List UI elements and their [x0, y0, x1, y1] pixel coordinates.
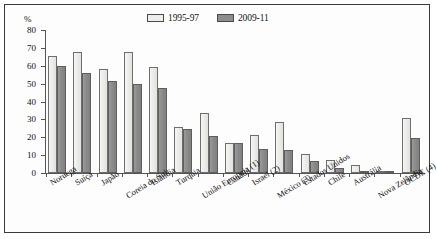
bar-1995-97: [174, 127, 183, 173]
bar-2009-11: [209, 136, 218, 173]
y-tick-label-10: 10: [14, 150, 36, 160]
legend-swatch-light: [147, 14, 164, 22]
bar-2009-11: [284, 150, 293, 173]
bar-group: [402, 30, 420, 173]
bar-group: [351, 30, 369, 173]
bar-2009-11: [108, 81, 117, 173]
bar-1995-97: [124, 52, 133, 173]
y-tick-label-0: 0: [14, 168, 36, 178]
bar-1995-97: [73, 52, 82, 173]
bar-1995-97: [402, 118, 411, 173]
y-tick-label-70: 70: [14, 43, 36, 53]
bar-1995-97: [351, 165, 360, 173]
bar-1995-97: [149, 67, 158, 173]
bar-1995-97: [225, 143, 234, 173]
bar-1995-97: [48, 56, 57, 173]
legend-item-2009-11: 2009-11: [217, 13, 269, 23]
bar-group: [326, 30, 344, 173]
chart-frame: 1995-97 2009-11 % 01020304050607080 Noru…: [4, 4, 430, 233]
bar-group: [174, 30, 192, 173]
legend-label-1995-97: 1995-97: [168, 13, 199, 23]
bar-group: [225, 30, 243, 173]
bar-group: [301, 30, 319, 173]
bar-group: [200, 30, 218, 173]
bar-group: [149, 30, 167, 173]
y-tick-label-60: 60: [14, 61, 36, 71]
legend-swatch-dark: [217, 14, 234, 22]
bar-2009-11: [385, 171, 394, 173]
bar-2009-11: [183, 129, 192, 173]
bar-1995-97: [200, 113, 209, 173]
y-tick-label-30: 30: [14, 114, 36, 124]
chart-legend: 1995-97 2009-11: [147, 13, 269, 23]
bar-group: [275, 30, 293, 173]
bar-1995-97: [99, 69, 108, 173]
bar-group: [376, 30, 394, 173]
bar-group: [48, 30, 66, 173]
x-tick: [46, 173, 47, 177]
bar-2009-11: [133, 84, 142, 173]
legend-label-2009-11: 2009-11: [238, 13, 269, 23]
bar-2009-11: [57, 66, 66, 173]
bar-group: [99, 30, 117, 173]
legend-item-1995-97: 1995-97: [147, 13, 199, 23]
bar-group: [250, 30, 268, 173]
bar-group: [124, 30, 142, 173]
x-tick: [97, 173, 98, 177]
bar-1995-97: [301, 154, 310, 173]
y-tick-label-50: 50: [14, 79, 36, 89]
bar-group: [73, 30, 91, 173]
y-tick-label-40: 40: [14, 97, 36, 107]
y-tick-label-80: 80: [14, 25, 36, 35]
y-tick-label-20: 20: [14, 132, 36, 142]
x-tick: [349, 173, 350, 177]
bar-2009-11: [158, 88, 167, 173]
y-axis-unit-label: %: [24, 14, 32, 24]
x-tick: [122, 173, 123, 177]
plot-area: [46, 30, 425, 173]
bar-2009-11: [82, 73, 91, 173]
